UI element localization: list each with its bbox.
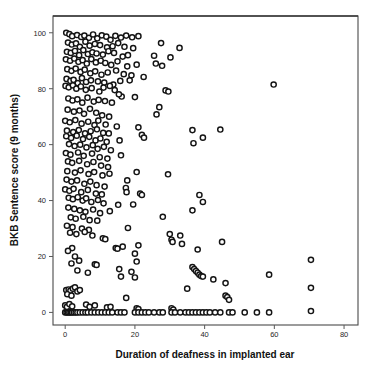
data-point [81,111,86,116]
x-tick-label: 40 [200,330,208,339]
data-point [125,53,130,58]
plot-canvas: 020406080 020406080100 Duration of deafn… [0,0,378,370]
data-point [92,41,97,46]
data-point [82,229,87,234]
data-point [308,308,313,313]
data-point [132,95,137,100]
data-point [94,127,99,132]
data-point [90,207,95,212]
data-point [77,208,82,213]
data-point [65,107,70,112]
data-point [101,144,106,149]
data-point [112,88,117,93]
data-point [69,293,74,298]
data-point [146,310,151,315]
data-point [101,85,106,90]
data-point [160,310,165,315]
data-point [70,225,75,230]
data-point [113,68,118,73]
data-point [67,120,72,125]
data-point [177,45,182,50]
data-point [73,117,78,122]
data-point [132,275,137,280]
data-point [79,190,84,195]
data-point [87,106,92,111]
data-point [154,112,159,117]
data-point [254,310,259,315]
data-point [105,156,110,161]
data-point [107,171,112,176]
data-point [100,52,105,57]
y-tick-label: 60 [38,140,46,149]
data-point [125,225,130,230]
data-point [117,138,122,143]
data-point [95,146,100,151]
y-tick-label: 100 [33,29,46,38]
data-point [72,170,77,175]
data-point [103,237,108,242]
data-point [94,262,99,267]
x-tick-label: 0 [63,330,67,339]
data-point [74,232,79,237]
data-point [157,105,162,110]
data-point [107,83,112,88]
data-point [116,92,121,97]
data-point [166,89,171,94]
data-point [116,41,121,46]
data-point [74,133,79,138]
data-point [308,285,313,290]
data-point [80,136,85,141]
data-point [103,60,108,65]
data-point [88,179,93,184]
data-point [90,233,95,238]
data-point [77,158,82,163]
data-point [85,162,90,167]
data-point [190,208,195,213]
data-point [85,270,90,275]
data-point [124,190,129,195]
data-point [70,160,75,165]
data-point [134,169,139,174]
data-point [84,61,89,66]
data-point [95,218,100,223]
data-point [90,143,95,148]
data-point [86,119,91,124]
data-point [76,150,81,155]
data-point [124,33,129,38]
data-point [92,303,97,308]
data-point [151,310,156,315]
data-point [80,100,85,105]
data-point [121,72,126,77]
data-point [110,44,115,49]
data-point [116,202,121,207]
data-point [109,100,114,105]
data-point [178,233,183,238]
data-point [73,66,78,71]
y-tick-label: 20 [38,252,46,261]
data-point [88,129,93,134]
data-point [111,50,116,55]
data-point [127,78,132,83]
data-point [73,216,78,221]
data-point [172,310,177,315]
data-point [105,70,110,75]
data-point [122,310,127,315]
data-point [107,209,112,214]
x-tick-label: 20 [131,330,139,339]
data-point [122,44,127,49]
data-point [85,187,90,192]
data-point [108,148,113,153]
data-point [139,192,144,197]
data-point [200,135,205,140]
data-point [120,244,125,249]
data-point [89,86,94,91]
data-point [72,206,77,211]
data-point [207,310,212,315]
data-point [66,205,71,210]
data-point [89,199,94,204]
data-point [78,142,83,147]
data-point [191,141,196,146]
data-point [79,121,84,126]
data-point [267,272,272,277]
data-point [153,61,158,66]
